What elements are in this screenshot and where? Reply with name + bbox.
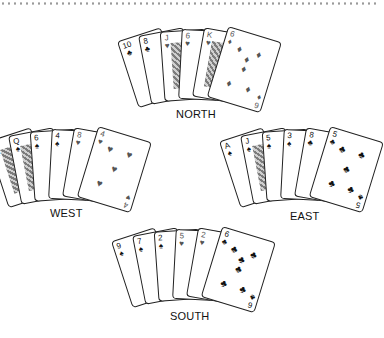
suit-pip-icon: ♦ bbox=[243, 53, 251, 65]
suit-pip-icon: ♣ bbox=[342, 163, 351, 175]
suit-pip-icon: ♦ bbox=[225, 77, 233, 89]
suit-pip-icon: ♥ bbox=[95, 177, 104, 189]
suit-pip-icon: ♣ bbox=[219, 277, 228, 289]
suit-pip-icon: ♣ bbox=[346, 183, 355, 195]
card-index-top: 4♠ bbox=[55, 132, 60, 148]
card-index-top: 2♠ bbox=[158, 234, 164, 250]
hand-east: A♠A♠J♠J♠5♠5♠3♠3♠8♣8♣5♣5♣♣♣♣♣♣ bbox=[240, 122, 360, 217]
card-index-bottom: 4♥ bbox=[123, 192, 132, 209]
card-index-top: 5♠ bbox=[266, 134, 272, 150]
suit-pip-icon: ♣ bbox=[249, 249, 258, 261]
card-index-bottom: 5♣ bbox=[354, 192, 364, 209]
card-index-top: 6♥ bbox=[185, 32, 191, 48]
label-east: EAST bbox=[290, 210, 320, 222]
label-south: SOUTH bbox=[170, 310, 210, 322]
suit-pip-icon: ♣ bbox=[230, 243, 239, 255]
hand-south: 9♠9♠7♠7♠2♠2♠5♥5♥2♥2♥6♣6♣♣♣♣♣♣♣ bbox=[132, 222, 252, 317]
hand-west: K♣K♣Q♠Q♠6♠6♠4♠4♠8♥8♥4♥4♥♥♥♥♥ bbox=[8, 122, 128, 217]
suit-pip-icon: ♦ bbox=[236, 43, 244, 55]
card-index-top: 6♠ bbox=[34, 134, 40, 150]
suit-pip-icon: ♥ bbox=[106, 143, 115, 155]
card-index-top: 6♣ bbox=[221, 230, 231, 247]
card-index-top: J♥ bbox=[164, 34, 170, 50]
hand-north: 10♣10♣8♣8♣J♥J♥6♥6♥K♥K♥6♦6♦♦♦♦♦♦♦ bbox=[138, 22, 258, 117]
suit-pip-icon: ♥ bbox=[110, 163, 119, 175]
card-index-bottom: 6♦ bbox=[253, 93, 262, 110]
card-index-top: 5♥ bbox=[179, 232, 185, 248]
card-index-top: 6♦ bbox=[227, 30, 236, 47]
label-north: NORTH bbox=[176, 108, 216, 120]
card-index-top: 5♣ bbox=[329, 130, 339, 147]
suit-pip-icon: ♣ bbox=[338, 143, 347, 155]
card-index-top: 4♥ bbox=[97, 130, 106, 147]
card-index-top: 8♣ bbox=[143, 37, 151, 54]
dotted-top-border bbox=[0, 2, 379, 5]
card-index-top: 2♥ bbox=[199, 231, 206, 248]
suit-pip-icon: ♣ bbox=[238, 283, 247, 295]
card-index-top: 3♠ bbox=[287, 132, 292, 148]
suit-pip-icon: ♣ bbox=[357, 149, 366, 161]
suit-pip-icon: ♦ bbox=[244, 83, 252, 95]
card-index-bottom: 6♣ bbox=[246, 292, 256, 309]
suit-pip-icon: ♦ bbox=[255, 49, 263, 61]
suit-pip-icon: ♣ bbox=[327, 177, 336, 189]
card-index-top: 8♥ bbox=[75, 131, 82, 148]
suit-pip-icon: ♥ bbox=[125, 149, 134, 161]
card-index-top: J♠ bbox=[245, 137, 252, 154]
card-index-top: 7♠ bbox=[137, 237, 144, 254]
label-west: WEST bbox=[50, 207, 83, 219]
card-index-top: 10♣ bbox=[122, 40, 135, 58]
card-index-top: 8♣ bbox=[307, 131, 315, 148]
suit-pip-icon: ♣ bbox=[237, 253, 246, 265]
card-index-top: 9♠ bbox=[116, 242, 125, 259]
card-index-top: A♠ bbox=[224, 142, 234, 159]
